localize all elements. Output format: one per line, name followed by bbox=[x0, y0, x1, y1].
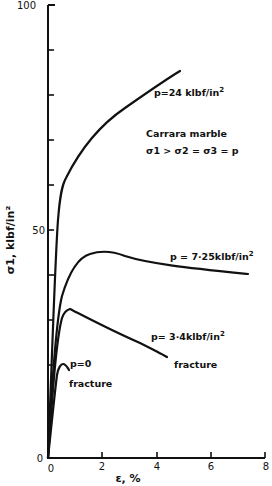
y-tick-label-50: 50 bbox=[32, 225, 45, 236]
x-tick-label-4: 4 bbox=[154, 461, 160, 472]
x-tick-label-8: 8 bbox=[263, 461, 269, 472]
curve-p7-25 bbox=[48, 252, 248, 458]
y-tick-label-0: 0 bbox=[37, 453, 43, 464]
x-tick-label-2: 2 bbox=[99, 461, 105, 472]
label-p24: p=24 klbf/in2 bbox=[154, 86, 224, 98]
annotation-stress-condition: σ1 > σ2 = σ3 = p bbox=[146, 145, 239, 156]
label-p0: p=0 bbox=[70, 358, 92, 369]
label-p7-25: p = 7·25klbf/in2 bbox=[170, 250, 254, 262]
stress-strain-chart: 100 50 0 0 2 4 6 8 ε, % σ1, klbf/in² p=2… bbox=[0, 0, 272, 486]
label-p3-4: p= 3·4klbf/in2 bbox=[151, 330, 225, 342]
annotation-fracture-p3-4: fracture bbox=[174, 359, 217, 370]
y-tick-label-100: 100 bbox=[17, 0, 36, 11]
x-tick-label-0: 0 bbox=[48, 463, 54, 474]
annotation-material: Carrara marble bbox=[146, 128, 227, 139]
y-axis-label: σ1, klbf/in² bbox=[4, 206, 17, 275]
x-axis-label: ε, % bbox=[115, 472, 140, 485]
x-tick-label-6: 6 bbox=[208, 461, 214, 472]
axes bbox=[47, 5, 265, 458]
annotation-fracture-p0: fracture bbox=[69, 378, 112, 389]
